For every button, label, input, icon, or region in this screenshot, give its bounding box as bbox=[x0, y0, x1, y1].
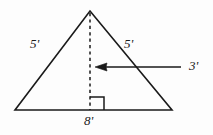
label-base: 8' bbox=[84, 114, 93, 127]
label-right-side: 5' bbox=[124, 37, 133, 50]
label-height: 3' bbox=[189, 59, 198, 72]
triangle-outline bbox=[15, 11, 172, 110]
triangle-diagram-svg bbox=[0, 0, 213, 135]
right-angle-marker-icon bbox=[90, 97, 104, 110]
triangle-figure: 5' 5' 3' 8' bbox=[0, 0, 213, 135]
arrow-head-icon bbox=[95, 63, 107, 71]
label-left-side: 5' bbox=[30, 37, 39, 50]
